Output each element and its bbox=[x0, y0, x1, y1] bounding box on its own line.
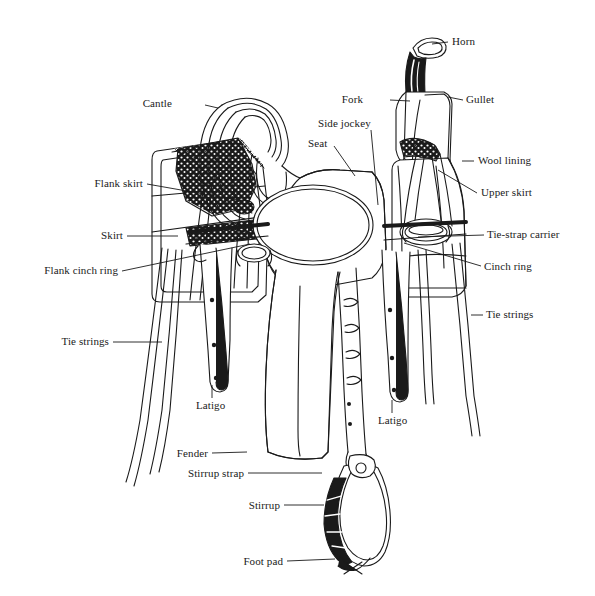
label-cinch-ring: Cinch ring bbox=[484, 261, 532, 272]
label-wool-lining: Wool lining bbox=[478, 155, 531, 166]
label-tie-strings-right: Tie strings bbox=[486, 309, 533, 320]
label-latigo-right: Latigo bbox=[378, 415, 407, 426]
label-tie-strings-left: Tie strings bbox=[0, 336, 109, 347]
saddle-diagram-page: HornForkGulletSide jockeySeatCantleWool … bbox=[0, 0, 595, 596]
label-seat: Seat bbox=[308, 138, 327, 149]
seat-and-jockey bbox=[253, 170, 386, 459]
leader-foot-pad bbox=[287, 559, 335, 561]
label-skirt: Skirt bbox=[0, 230, 123, 241]
label-flank-cinch-ring: Flank cinch ring bbox=[0, 265, 118, 276]
leader-fender bbox=[212, 452, 247, 453]
label-horn: Horn bbox=[452, 36, 475, 47]
label-stirrup-strap: Stirrup strap bbox=[0, 468, 244, 479]
label-upper-skirt: Upper skirt bbox=[481, 187, 532, 198]
label-fender: Fender bbox=[0, 448, 208, 459]
label-side-jockey: Side jockey bbox=[318, 118, 371, 129]
label-cantle: Cantle bbox=[0, 98, 172, 109]
label-tie-strap-carrier: Tie-strap carrier bbox=[487, 229, 559, 240]
label-foot-pad: Foot pad bbox=[0, 556, 283, 567]
fender-stirrup-strap bbox=[338, 268, 371, 484]
latigo-right bbox=[382, 250, 410, 402]
label-latigo-left: Latigo bbox=[196, 400, 225, 411]
stirrup bbox=[324, 455, 390, 574]
leader-cantle bbox=[205, 105, 218, 108]
label-flank-skirt: Flank skirt bbox=[0, 178, 143, 189]
label-gullet: Gullet bbox=[466, 94, 494, 105]
label-stirrup: Stirrup bbox=[0, 500, 280, 511]
